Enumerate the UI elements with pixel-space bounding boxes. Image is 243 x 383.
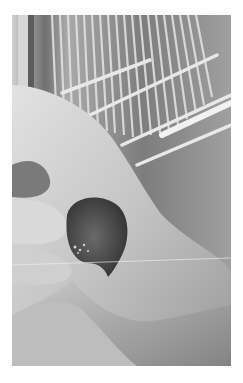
photo-canvas: [12, 15, 231, 366]
bird-in-hand-photo: [12, 15, 231, 366]
